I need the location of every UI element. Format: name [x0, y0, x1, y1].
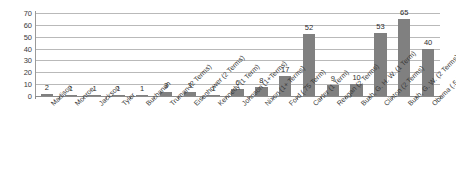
gridline-70: 70	[35, 13, 440, 14]
y-axis-line	[35, 11, 36, 98]
x-axis-label: Truman (2 Terms)	[169, 102, 174, 107]
y-tick-label-20: 20	[24, 70, 32, 78]
bar-value-label: 2	[45, 84, 49, 92]
x-axis-label: Eisenhower (2 Terms)	[192, 102, 197, 107]
x-axis-label: Madison	[49, 102, 54, 107]
x-axis-label: Bush, G. W. (2 Terms)	[407, 102, 412, 107]
x-axis-label: Reagan (2 Terms)	[335, 102, 340, 107]
y-tick-label-0: 0	[28, 93, 32, 101]
y-tick-label-60: 60	[24, 22, 32, 30]
y-tick-label-10: 10	[24, 81, 32, 89]
bar-value-label: 1	[140, 85, 144, 93]
x-axis-label: Bush, G. H. W. (1 Term)	[359, 102, 364, 107]
x-axis-label: Johnson (1+Terms)	[240, 102, 245, 107]
x-tick	[35, 96, 36, 99]
x-axis-label: Monroe	[73, 102, 78, 107]
x-axis-label: Ford (.75 Term)	[288, 102, 293, 107]
x-axis-label: Clinton (2 Terms)	[383, 102, 388, 107]
y-tick-label-70: 70	[24, 10, 32, 18]
bar-value-label: 52	[305, 24, 313, 32]
y-tick-label-30: 30	[24, 58, 32, 66]
x-axis-label: Buchanan	[145, 102, 150, 107]
x-axis-label: Carter (1 Term)	[311, 102, 316, 107]
x-axis-line	[35, 96, 440, 97]
bar-chart: 010203040506070 21111331681752910536540 …	[0, 0, 456, 182]
x-axis-label: Obama (.5 Term)	[431, 102, 436, 107]
bar-value-label: 53	[376, 23, 384, 31]
bar-value-label: 65	[400, 9, 408, 17]
y-tick-label-50: 50	[24, 34, 32, 42]
x-axis-label: Tyler	[121, 102, 126, 107]
x-axis-label: Jackson	[97, 102, 102, 107]
x-axis-label: Kennedy (1 Term)	[216, 102, 221, 107]
bar-value-label: 40	[424, 39, 432, 47]
y-tick-label-40: 40	[24, 46, 32, 54]
x-axis-label: Nixon (1+ Terms)	[264, 102, 269, 107]
